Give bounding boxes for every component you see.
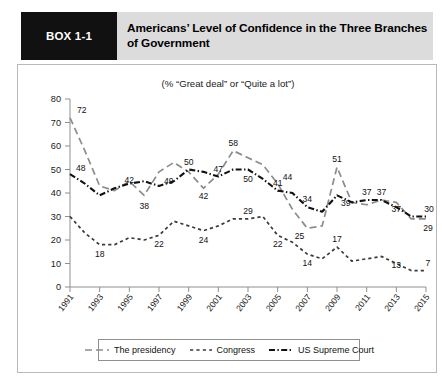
data-label: 34: [303, 194, 313, 204]
page-title: Americans’ Level of Confidence in the Th…: [127, 21, 433, 51]
data-label: 29: [423, 223, 433, 233]
legend-swatch-supreme-court: [268, 346, 294, 354]
y-tick-label: 0: [56, 282, 61, 292]
y-tick-label: 40: [51, 188, 61, 198]
x-tick-label: 2013: [382, 292, 402, 313]
data-label: 17: [332, 234, 342, 244]
data-label: 47: [214, 164, 224, 174]
y-tick-label: 60: [51, 141, 61, 151]
chart-frame: (% “Great deal” or “Quite a lot”) 010203…: [17, 64, 437, 373]
series-line: [70, 217, 426, 271]
series-lines: [70, 118, 426, 271]
x-tick-label: 2011: [353, 292, 372, 313]
data-label: 37: [377, 187, 387, 197]
data-label: 25: [295, 231, 305, 241]
data-label: 29: [243, 206, 253, 216]
data-label: 24: [199, 235, 209, 245]
data-label: 41: [273, 178, 283, 188]
x-tick-label: 2005: [264, 292, 284, 313]
x-tick-label: 2001: [204, 292, 224, 313]
data-label: 50: [243, 174, 253, 184]
data-label: 48: [76, 163, 86, 173]
data-label: 30: [424, 204, 434, 214]
legend-label-presidency: The presidency: [114, 345, 176, 355]
legend-item-congress: Congress: [189, 345, 256, 355]
box-header: BOX 1-1 Americans’ Level of Confidence i…: [21, 12, 433, 60]
data-label: 38: [139, 201, 149, 211]
data-label: 22: [273, 239, 283, 249]
y-tick-label: 10: [51, 259, 61, 269]
x-tick-label: 2003: [234, 292, 254, 313]
legend-label-supreme-court: US Supreme Court: [298, 345, 374, 355]
legend-item-presidency: The presidency: [84, 345, 176, 355]
legend-swatch-presidency: [84, 346, 110, 354]
data-label: 44: [283, 172, 293, 182]
data-label: 42: [199, 191, 209, 201]
box-title-bar: Americans’ Level of Confidence in the Th…: [117, 12, 433, 60]
x-tick-label: 2007: [293, 292, 313, 313]
data-label: 42: [125, 175, 135, 185]
y-axis: 01020304050607080: [51, 94, 70, 292]
line-chart: 01020304050607080 1991199319951997199920…: [18, 91, 438, 337]
y-tick-label: 20: [51, 235, 61, 245]
data-point-labels: 7238494258442551372918222429221417137484…: [76, 105, 434, 271]
data-label: 39: [341, 198, 351, 208]
y-tick-label: 70: [51, 118, 61, 128]
x-axis: 1991199319951997199920012003200520072009…: [56, 287, 432, 313]
data-label: 72: [77, 105, 87, 115]
data-label: 51: [332, 154, 342, 164]
data-label: 50: [184, 157, 194, 167]
y-tick-label: 80: [51, 94, 61, 104]
x-tick-label: 2015: [412, 292, 432, 313]
legend-swatch-congress: [189, 346, 213, 354]
x-tick-label: 1997: [145, 292, 165, 313]
data-label: 37: [362, 187, 372, 197]
data-label: 22: [154, 239, 164, 249]
box-number-badge: BOX 1-1: [21, 12, 117, 60]
x-tick-label: 1991: [56, 292, 76, 313]
legend-item-supreme-court: US Supreme Court: [268, 345, 374, 355]
y-axis-ticks: 01020304050607080: [51, 94, 70, 292]
legend-label-congress: Congress: [217, 345, 256, 355]
y-tick-label: 30: [51, 212, 61, 222]
data-label: 58: [228, 138, 238, 148]
x-tick-label: 1999: [175, 292, 195, 313]
x-axis-ticks: 1991199319951997199920012003200520072009…: [56, 287, 432, 313]
data-label: 13: [392, 260, 402, 270]
data-label: 7: [426, 258, 431, 268]
figure-page: BOX 1-1 Americans’ Level of Confidence i…: [0, 0, 442, 387]
x-tick-label: 2009: [323, 292, 343, 313]
chart-legend: The presidency Congress US Supreme Court: [98, 339, 360, 361]
data-label: 14: [303, 258, 313, 268]
data-label: 37: [392, 204, 402, 214]
y-tick-label: 50: [51, 165, 61, 175]
chart-subtitle: (% “Great deal” or “Quite a lot”): [18, 78, 438, 89]
data-label: 18: [95, 249, 105, 259]
x-tick-label: 1995: [115, 292, 135, 313]
x-tick-label: 1993: [86, 292, 106, 313]
data-label: 49: [164, 176, 174, 186]
